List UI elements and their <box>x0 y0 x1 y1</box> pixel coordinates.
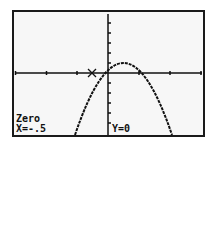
y-readout: Y=0 <box>112 124 130 133</box>
zero-label: Zero <box>16 114 40 123</box>
x-readout: X=-.5 <box>16 124 46 133</box>
